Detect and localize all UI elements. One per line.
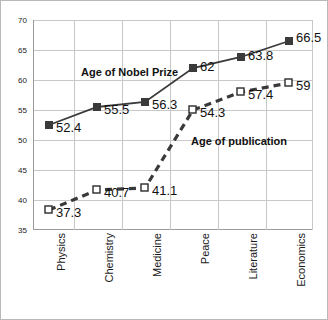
y-tick-label: 60 — [5, 77, 27, 85]
data-label: 57.4 — [248, 88, 273, 101]
data-label: 41.1 — [152, 184, 177, 197]
y-tick-label: 65 — [5, 47, 27, 55]
y-tick-label: 70 — [5, 17, 27, 25]
data-label: 54.3 — [200, 106, 225, 119]
data-point-marker — [93, 186, 100, 193]
data-label: 62 — [200, 60, 214, 73]
data-label: 55.5 — [104, 103, 129, 116]
x-category-label-literature: Literature — [247, 233, 259, 313]
x-category-label-peace: Peace — [199, 233, 211, 313]
data-point-marker — [45, 121, 53, 129]
y-tick-label: 40 — [5, 197, 27, 205]
x-category-label-economics: Economics — [295, 233, 307, 313]
data-label: 66.5 — [296, 31, 321, 44]
y-tick-label: 50 — [5, 137, 27, 145]
y-tick-label: 35 — [5, 227, 27, 235]
data-point-marker — [285, 79, 292, 86]
data-point-marker — [93, 103, 101, 111]
y-tick-label: 45 — [5, 167, 27, 175]
y-tick-label: 55 — [5, 107, 27, 115]
data-label: 63.8 — [248, 49, 273, 62]
data-label: 40.7 — [104, 186, 129, 199]
chart-container: 70 65 60 55 50 45 40 35 52.4 55.5 56.3 6… — [0, 0, 328, 320]
data-point-marker — [237, 53, 245, 61]
data-label: 56.3 — [152, 98, 177, 111]
x-category-label-physics: Physics — [55, 233, 67, 313]
data-point-marker — [285, 37, 293, 45]
x-axis-category-labels: Physics Chemistry Medicine Peace Literat… — [33, 233, 312, 319]
data-point-marker — [141, 98, 149, 106]
data-point-marker — [189, 106, 196, 113]
x-category-label-medicine: Medicine — [151, 233, 163, 313]
data-label: 59 — [296, 79, 310, 92]
data-label: 52.4 — [56, 121, 81, 134]
data-point-marker — [237, 88, 244, 95]
annotation-age-of-nobel-prize: Age of Nobel Prize — [81, 67, 178, 78]
data-label: 37.3 — [56, 206, 81, 219]
data-point-marker — [141, 184, 148, 191]
data-point-marker — [189, 64, 197, 72]
data-point-marker — [45, 206, 52, 213]
annotation-age-of-publication: Age of publication — [191, 136, 287, 147]
x-category-label-chemistry: Chemistry — [103, 233, 115, 313]
